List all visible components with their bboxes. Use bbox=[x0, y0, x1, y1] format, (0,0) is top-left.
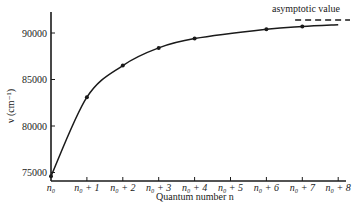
y-axis-title: ν (cm⁻¹) bbox=[5, 89, 17, 123]
data-point bbox=[300, 24, 304, 28]
x-tick-label: n₀ + 1 bbox=[74, 182, 99, 193]
data-points bbox=[49, 24, 304, 178]
x-tick-label: n₀ + 2 bbox=[110, 182, 135, 193]
data-point bbox=[85, 95, 89, 99]
x-tick-label: n₀ + 7 bbox=[290, 182, 316, 193]
y-tick-label: 80000 bbox=[22, 121, 47, 132]
fitted-curve bbox=[51, 25, 338, 177]
data-point bbox=[49, 174, 53, 178]
data-point bbox=[264, 27, 268, 31]
y-tick-label: 90000 bbox=[22, 28, 47, 39]
wavenumber-vs-quantum-number-chart: 75000800008500090000 n₀n₀ + 1n₀ + 2n₀ + … bbox=[0, 0, 354, 213]
x-tick-label: n₀ bbox=[47, 182, 56, 193]
asymptote-label: asymptotic value bbox=[272, 3, 341, 14]
data-point bbox=[193, 37, 197, 41]
y-tick-label: 85000 bbox=[22, 74, 47, 85]
data-curve bbox=[51, 25, 338, 177]
y-tick-label: 75000 bbox=[22, 167, 47, 178]
x-tick-label: n₀ + 8 bbox=[326, 182, 351, 193]
x-axis-title: Quantum number n bbox=[156, 191, 234, 202]
x-tick-label: n₀ + 6 bbox=[254, 182, 279, 193]
data-point bbox=[121, 64, 125, 68]
data-point bbox=[157, 46, 161, 50]
y-axis: 75000800008500090000 bbox=[22, 12, 55, 181]
